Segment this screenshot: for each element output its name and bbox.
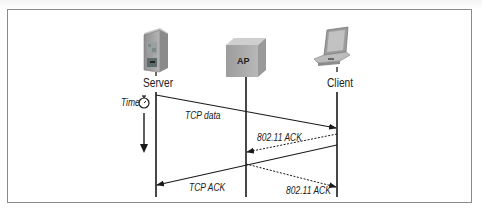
msg-80211-ack-2-arrow <box>246 164 336 187</box>
laptop-icon <box>314 27 350 66</box>
msg-label-tcp-ack: TCP ACK <box>189 182 225 193</box>
msg-label-80211-ack-1: 802.11 ACK <box>257 132 302 143</box>
msg-label-80211-ack-2: 802.11 ACK <box>286 185 331 196</box>
msg-tcp-ack-arrow <box>157 145 337 185</box>
time-label: Time <box>121 97 140 108</box>
node-label-ap: AP <box>237 56 250 66</box>
sequence-diagram <box>0 0 482 210</box>
node-label-server: Server <box>143 76 173 90</box>
stopwatch-icon <box>139 96 149 108</box>
server-tower-icon <box>144 28 168 72</box>
msg-label-tcp-data: TCP data <box>185 110 221 121</box>
node-label-client: Client <box>327 76 353 90</box>
time-arrow <box>140 113 148 153</box>
